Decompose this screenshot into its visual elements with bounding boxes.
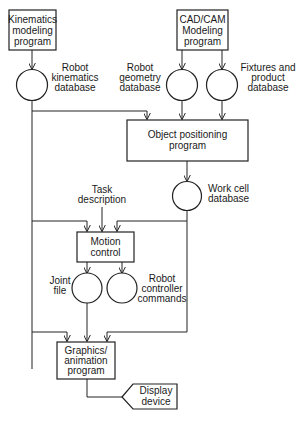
svg-text:Object positioning: Object positioning bbox=[148, 129, 228, 140]
database-circle-icon bbox=[72, 273, 102, 303]
fixtures-product-database: Fixtures and product database bbox=[207, 62, 296, 101]
svg-text:file: file bbox=[54, 285, 67, 296]
database-circle-icon bbox=[17, 70, 48, 101]
svg-text:program: program bbox=[67, 365, 104, 376]
svg-text:commands: commands bbox=[138, 293, 187, 304]
svg-text:CAD/CAM: CAD/CAM bbox=[179, 14, 225, 25]
display-device-output: Display device bbox=[122, 384, 177, 409]
svg-text:database: database bbox=[54, 82, 96, 93]
database-circle-icon bbox=[107, 273, 137, 303]
work-cell-database: Work cell database bbox=[173, 182, 250, 211]
cadcam-modeling-program-box: CAD/CAM Modeling program bbox=[177, 10, 228, 50]
svg-text:device: device bbox=[142, 396, 171, 407]
database-circle-icon bbox=[207, 70, 238, 101]
svg-text:program: program bbox=[169, 140, 206, 151]
svg-text:Modeling: Modeling bbox=[182, 25, 223, 36]
svg-text:modeling: modeling bbox=[12, 25, 53, 36]
svg-text:Kinematics: Kinematics bbox=[8, 14, 57, 25]
svg-text:Display: Display bbox=[140, 385, 173, 396]
object-positioning-program-box: Object positioning program bbox=[127, 120, 248, 161]
svg-text:database: database bbox=[247, 82, 289, 93]
joint-file-database: Joint file bbox=[49, 273, 102, 303]
robot-controller-commands-database: Robot controller commands bbox=[107, 273, 186, 304]
database-circle-icon bbox=[167, 70, 198, 101]
database-circle-icon bbox=[173, 182, 202, 211]
flow-diagram: Kinematics modeling program CAD/CAM Mode… bbox=[0, 0, 303, 422]
svg-text:control: control bbox=[90, 247, 120, 258]
robot-geometry-database: Robot geometry database bbox=[119, 62, 197, 101]
svg-text:Motion: Motion bbox=[90, 236, 120, 247]
svg-text:database: database bbox=[208, 193, 250, 204]
task-description-label: Task description bbox=[78, 184, 126, 205]
graphics-animation-program-box: Graphics/ animation program bbox=[57, 342, 115, 379]
motion-control-box: Motion control bbox=[77, 232, 134, 262]
svg-text:program: program bbox=[184, 36, 221, 47]
svg-text:database: database bbox=[119, 82, 161, 93]
kinematics-modeling-program-box: Kinematics modeling program bbox=[8, 10, 57, 50]
svg-text:description: description bbox=[78, 194, 126, 205]
robot-kinematics-database: Robot kinematics database bbox=[17, 62, 99, 101]
svg-text:program: program bbox=[14, 36, 51, 47]
